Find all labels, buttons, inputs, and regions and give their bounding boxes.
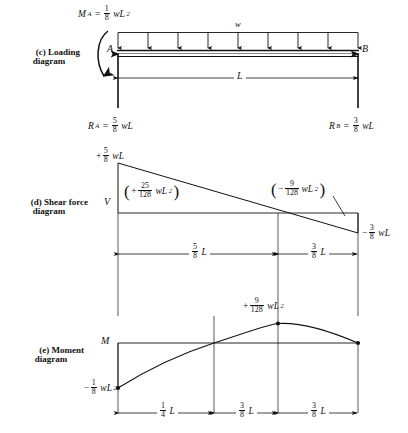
load-symbol-label: w — [235, 20, 241, 29]
moment-max-term: wL — [267, 301, 279, 311]
loading-diagram-group — [98, 31, 359, 108]
rb-subscript: B — [336, 122, 340, 129]
fem-equals: = — [95, 9, 100, 19]
shear-value-left-label: + 5 8 wL — [96, 147, 124, 164]
moment-min-exponent: 2 — [113, 384, 116, 391]
neg-area-numerator: 9 — [289, 180, 295, 188]
beam-member — [117, 51, 359, 57]
caption-loading: (c) Loading diagram — [8, 48, 80, 66]
span-length-label: L — [234, 71, 246, 81]
ra-equals: = — [103, 121, 108, 131]
shear-dim2-numerator: 3 — [311, 243, 317, 251]
fixed-end-moment-label: MA = 1 8 wL2 — [78, 5, 130, 22]
rb-term: wL — [362, 121, 374, 131]
ra-denominator: 8 — [112, 125, 118, 134]
moment-min-numerator: 1 — [91, 379, 97, 387]
moment-min-sign: − — [84, 383, 89, 393]
shear-dim1-fraction: 5 8 — [192, 243, 198, 260]
ra-numerator: 5 — [112, 117, 118, 125]
ra-term: wL — [121, 121, 133, 131]
moment-min-denominator: 8 — [91, 387, 97, 396]
shear-dim1-denominator: 8 — [192, 251, 198, 260]
node-label-a: A — [107, 44, 113, 54]
shear-dim1-unit: L — [202, 247, 207, 257]
moment-dim3-fraction: 3 8 — [311, 402, 317, 419]
moment-dim1-numerator: 1 — [160, 402, 166, 410]
pos-area-sign: + — [131, 186, 136, 196]
caption-moment: (e) Moment diagram — [8, 346, 84, 364]
shear-left-denominator: 8 — [103, 155, 109, 164]
shear-dim2-denominator: 8 — [311, 251, 317, 260]
shear-left-fraction: 5 8 — [103, 147, 109, 164]
fem-fraction: 1 8 — [104, 5, 110, 22]
moment-max-label: + 9 128 wL2 — [243, 297, 284, 314]
shear-right-denominator: 8 — [369, 232, 375, 241]
moment-dim1-fraction: 1 4 — [160, 402, 166, 419]
shear-dimension-label-1: 5 8 L — [189, 243, 210, 260]
reaction-b-label: RB = 3 8 wL — [329, 117, 374, 134]
shear-positive-area-label: ( + 25 128 wL2 ) — [124, 182, 179, 199]
moment-min-label: − 1 8 wL2 — [84, 379, 117, 396]
ra-subscript: A — [95, 122, 99, 129]
fem-subscript: A — [87, 10, 91, 17]
moment-max-numerator: 9 — [254, 297, 260, 305]
ra-fraction: 5 8 — [112, 117, 118, 134]
moment-dim1-unit: L — [170, 406, 175, 416]
moment-curve — [118, 323, 358, 388]
pos-area-denominator: 128 — [138, 190, 152, 199]
uniform-load-arrows — [118, 33, 358, 49]
fem-term: wL — [113, 9, 125, 19]
shear-right-numerator: 3 — [369, 224, 375, 232]
fem-exponent: 2 — [126, 10, 129, 17]
fem-symbol: M — [78, 9, 86, 19]
fem-numerator: 1 — [104, 5, 110, 13]
node-label-b: B — [362, 44, 368, 54]
neg-area-denominator: 128 — [285, 188, 299, 197]
neg-area-exponent: 2 — [315, 185, 318, 192]
shear-left-term: wL — [112, 151, 124, 161]
shear-dimension-label-2: 3 8 L — [308, 243, 329, 260]
moment-max-exponent: 2 — [280, 302, 283, 309]
moment-max-sign: + — [243, 301, 248, 311]
moment-min-fraction: 1 8 — [91, 379, 97, 396]
rb-equals: = — [344, 121, 349, 131]
moment-min-term: wL — [100, 383, 112, 393]
moment-max-fraction: 9 128 — [250, 297, 264, 314]
neg-area-sign: − — [278, 184, 283, 194]
moment-dim2-unit: L — [249, 406, 254, 416]
fem-denominator: 8 — [104, 13, 110, 22]
pos-area-numerator: 25 — [140, 182, 150, 190]
pos-area-exponent: 2 — [169, 187, 172, 194]
moment-dim3-denominator: 8 — [311, 410, 317, 419]
shear-negative-area-label: ( − 9 128 wL2 ) — [271, 180, 325, 197]
moment-dim1-denominator: 4 — [160, 410, 166, 419]
shear-axis-symbol: V — [104, 197, 110, 207]
moment-dimension-label-1: 1 4 L — [157, 402, 178, 419]
moment-dim3-numerator: 3 — [311, 402, 317, 410]
shear-left-numerator: 5 — [103, 147, 109, 155]
moment-max-denominator: 128 — [250, 305, 264, 314]
moment-dimension-label-2: 3 8 L — [236, 402, 257, 419]
moment-dim2-denominator: 8 — [239, 410, 245, 419]
moment-dim2-fraction: 3 8 — [239, 402, 245, 419]
neg-area-term: wL — [302, 184, 314, 194]
pos-area-fraction: 25 128 — [138, 182, 152, 199]
ra-symbol: R — [88, 121, 94, 131]
neg-area-fraction: 9 128 — [285, 180, 299, 197]
rb-fraction: 3 8 — [353, 117, 359, 134]
rb-symbol: R — [329, 121, 335, 131]
moment-axis-symbol: M — [101, 336, 109, 346]
shear-right-sign: − — [362, 228, 367, 238]
shear-left-sign: + — [96, 151, 101, 161]
moment-dim2-numerator: 3 — [239, 402, 245, 410]
moment-dimension-label-3: 3 8 L — [308, 402, 329, 419]
moment-dim3-unit: L — [321, 406, 326, 416]
rb-denominator: 8 — [353, 125, 359, 134]
shear-dim2-fraction: 3 8 — [311, 243, 317, 260]
reaction-a-label: RA = 5 8 wL — [88, 117, 133, 134]
caption-shear: (d) Shear force diagram — [0, 198, 88, 216]
shear-right-fraction: 3 8 — [369, 224, 375, 241]
shear-value-right-label: − 3 8 wL — [362, 224, 390, 241]
rb-numerator: 3 — [353, 117, 359, 125]
shear-right-term: wL — [378, 228, 390, 238]
